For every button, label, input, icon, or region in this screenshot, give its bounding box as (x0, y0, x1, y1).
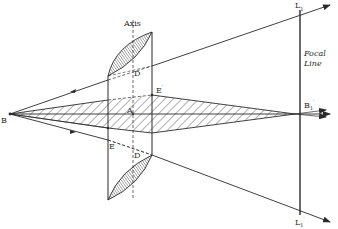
point-A-label: A (127, 107, 133, 115)
focal-point-label: B1′ (304, 100, 314, 111)
point-E-left (107, 127, 109, 129)
L1-bottom-label: L1′ (295, 217, 305, 228)
focal-point-sub: 1 (310, 105, 313, 111)
axis-label: Axis (124, 20, 141, 28)
cylindrical-lens-diagram (0, 0, 338, 229)
point-E-right-prime: ′ (162, 84, 163, 90)
focal-line-label-2: Line (304, 60, 322, 68)
point-D-top-label: D (134, 70, 140, 78)
point-E-right-label: E′ (156, 85, 163, 95)
focal-point-prime: ′ (313, 99, 314, 105)
point-D-bottom-label: D′ (134, 150, 142, 160)
point-D-bottom-prime: ′ (140, 149, 141, 155)
point-B-label: B (1, 117, 7, 125)
point-B (9, 113, 12, 116)
L1-top-sub: 1 (300, 6, 303, 12)
L1-top-label: L1 (295, 2, 304, 12)
point-E-left-label: E (109, 143, 115, 151)
focal-line-label-1: Focal (304, 50, 326, 58)
L1-bottom-prime: ′ (304, 216, 305, 222)
lower-ray-out (152, 155, 330, 222)
point-E-right (151, 94, 153, 96)
L1-bottom-sub: 1 (300, 222, 303, 228)
